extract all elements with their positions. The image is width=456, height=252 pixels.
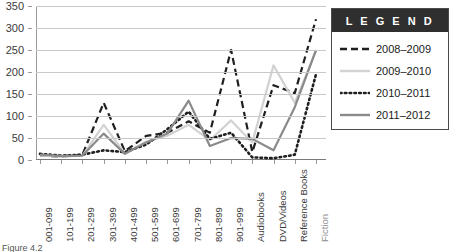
y-axis-tick-label: 0 xyxy=(18,155,24,165)
y-axis-tick-mark xyxy=(28,72,32,73)
x-axis-tick-label: 201-299 xyxy=(86,207,95,242)
series-lines xyxy=(36,6,326,160)
gridline xyxy=(36,28,326,29)
chart-area: 050100150200250300350 001-099101-199201-… xyxy=(0,0,330,252)
y-axis-tick-label: 150 xyxy=(6,89,24,99)
series-line xyxy=(40,51,316,157)
y-axis-tick-mark xyxy=(28,28,32,29)
legend-item: 2010–2011 xyxy=(340,82,448,104)
legend-items: 2008–20092009–20102010–20112011–2012 xyxy=(332,32,448,126)
y-axis-tick-label: 250 xyxy=(6,45,24,55)
gridline xyxy=(36,138,326,139)
dashed-line-swatch xyxy=(340,44,370,54)
figure-container: 050100150200250300350 001-099101-199201-… xyxy=(0,0,456,252)
y-axis-tick-mark xyxy=(28,160,32,161)
legend-item-label: 2009–2010 xyxy=(376,65,431,77)
x-axis-tick-label: 701-799 xyxy=(193,207,202,242)
legend-item-label: 2010–2011 xyxy=(376,87,430,99)
series-line xyxy=(40,19,316,156)
legend-item-label: 2008–2009 xyxy=(376,43,431,55)
y-axis-tick-mark xyxy=(28,50,32,51)
legend-item-label: 2011–2012 xyxy=(376,109,430,121)
y-axis-tick-mark xyxy=(28,116,32,117)
figure-caption: Figure 4.2 xyxy=(2,243,43,252)
gridline xyxy=(36,50,326,51)
gridline xyxy=(36,72,326,73)
x-axis-tick-label: Fiction xyxy=(320,214,329,242)
gridline xyxy=(36,116,326,117)
x-axis-tick-label: 001-099 xyxy=(44,207,53,242)
x-axis: 001-099101-199201-299301-399401-499501-5… xyxy=(36,164,326,248)
legend-title: L E G E N D xyxy=(332,9,448,32)
x-axis-tick-label: Reference Books xyxy=(299,169,308,242)
x-axis-tick-label: 801-899 xyxy=(214,207,223,242)
x-axis-tick-label: DVD/Videos xyxy=(278,190,287,242)
y-axis-tick-label: 50 xyxy=(12,133,24,143)
y-axis-tick-label: 100 xyxy=(6,111,24,121)
gridline xyxy=(36,94,326,95)
y-axis-tick-mark xyxy=(28,6,32,7)
y-axis-tick-mark xyxy=(28,94,32,95)
legend-item: 2011–2012 xyxy=(340,104,448,126)
x-axis-tick-label: 401-499 xyxy=(129,207,138,242)
gridline xyxy=(36,6,326,7)
x-axis-tick-label: 301-399 xyxy=(108,207,117,242)
y-axis-tick-label: 300 xyxy=(6,23,24,33)
plot-area xyxy=(36,6,326,160)
x-axis-tick-label: 901-999 xyxy=(235,207,244,242)
y-axis-tick-label: 200 xyxy=(6,67,24,77)
legend-item: 2009–2010 xyxy=(340,60,448,82)
legend: L E G E N D 2008–20092009–20102010–20112… xyxy=(331,8,449,130)
y-axis-tick-label: 350 xyxy=(6,1,24,11)
x-axis-tick-label: 501-599 xyxy=(150,207,159,242)
dotted-line-swatch xyxy=(340,88,370,98)
solid-line-swatch xyxy=(340,110,370,120)
y-axis-tick-mark xyxy=(28,138,32,139)
y-axis: 050100150200250300350 xyxy=(0,0,32,166)
solid-line-swatch xyxy=(340,66,370,76)
legend-item: 2008–2009 xyxy=(340,38,448,60)
x-axis-tick-label: 101-199 xyxy=(65,207,74,242)
x-axis-tick-label: 601-699 xyxy=(171,207,180,242)
x-axis-tick-label: Audiobooks xyxy=(256,192,265,242)
